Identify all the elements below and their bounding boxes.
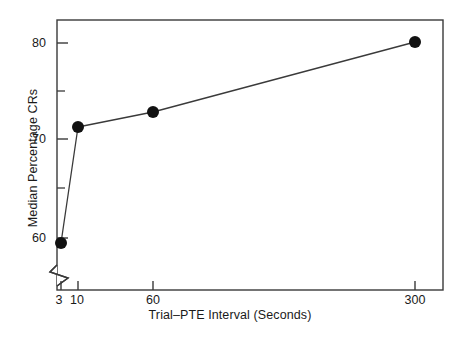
data-point-marker (147, 106, 159, 118)
data-point-marker (409, 36, 421, 48)
data-series-line (61, 42, 415, 243)
data-point-marker (55, 237, 67, 249)
axes-frame (57, 20, 443, 290)
chart-figure: Trial–PTE Interval (Seconds) Median Perc… (0, 0, 460, 337)
plot-area (0, 0, 460, 337)
data-point-marker (72, 121, 84, 133)
